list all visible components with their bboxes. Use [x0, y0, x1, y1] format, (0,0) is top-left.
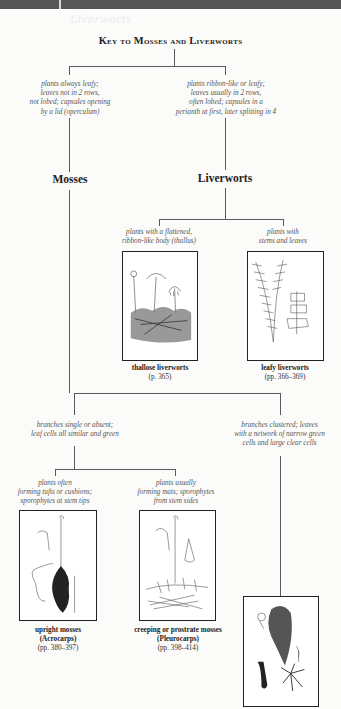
connector-title-stem — [174, 49, 175, 66]
show-through-text: Liverworts — [70, 11, 131, 27]
header-divider — [59, 0, 61, 9]
connector-sphagnum-down — [280, 456, 281, 596]
upright-moss-drawing-icon — [20, 511, 96, 620]
connector-single-down — [74, 446, 75, 469]
clustered-branch-criteria: branches clustered; leaves with a networ… — [218, 421, 341, 449]
leafy-caption: leafy liverworts (pp. 366–369) — [230, 364, 340, 382]
pleurocarp-criteria: plants usually forming mats; sporophytes… — [122, 479, 230, 507]
connector-liverworts-top — [225, 66, 226, 75]
connector-thallose-top — [159, 219, 160, 226]
single-branch-criteria: branches single or absent; leaf cells al… — [10, 421, 140, 439]
mosses-criteria: plants always leafy; leaves not in 2 row… — [5, 80, 135, 117]
thallose-criteria: plants with a flattened, ribbon-like bod… — [104, 228, 214, 246]
sphagnum-moss-drawing-icon — [244, 597, 318, 706]
thallose-liverwort-illustration — [122, 251, 198, 361]
connector-level1-bar — [69, 66, 226, 67]
connector-pleurocarp-top — [175, 469, 176, 476]
connector-liverworts-down — [225, 118, 226, 170]
liverworts-label: Liverworts — [185, 172, 265, 184]
connector-liverworts-stem — [225, 188, 226, 219]
page-header-bar — [0, 0, 341, 9]
connector-leafy-top — [283, 219, 284, 226]
leafy-liverwort-illustration — [247, 251, 324, 361]
thallose-liverwort-drawing-icon — [123, 252, 197, 360]
sphagnum-moss-illustration — [243, 596, 319, 707]
connector-mosses-stem — [69, 190, 70, 393]
leafy-criteria: plants with stems and leaves — [235, 228, 331, 246]
thallose-caption: thallose liverworts (p. 365) — [105, 364, 215, 382]
connector-mosses-bar — [74, 393, 281, 394]
connector-acrocarp-top — [55, 469, 56, 476]
creeping-moss-illustration — [139, 510, 216, 621]
acrocarp-caption: upright mosses (Acrocarps) (pp. 380–397) — [2, 626, 114, 652]
upright-moss-illustration — [19, 510, 97, 621]
leafy-liverwort-drawing-icon — [248, 252, 323, 360]
connector-liverworts-bar — [159, 219, 284, 220]
connector-mosses-top — [69, 66, 70, 75]
connector-mosses-down — [69, 118, 70, 172]
connector-moss-forms-bar — [55, 469, 176, 470]
acrocarp-criteria: plants often forming tufts or cushions; … — [2, 479, 108, 507]
mosses-label: Mosses — [30, 173, 110, 185]
pleurocarp-caption: creeping or prostrate mosses (Pleurocarp… — [120, 626, 236, 652]
liverworts-criteria: plants ribbon-like or leafy; leaves usua… — [160, 80, 292, 117]
connector-single-top — [74, 393, 75, 415]
connector-clustered-top — [280, 393, 281, 415]
key-title: Key to Mosses and Liverworts — [0, 35, 341, 46]
creeping-moss-drawing-icon — [140, 511, 215, 620]
